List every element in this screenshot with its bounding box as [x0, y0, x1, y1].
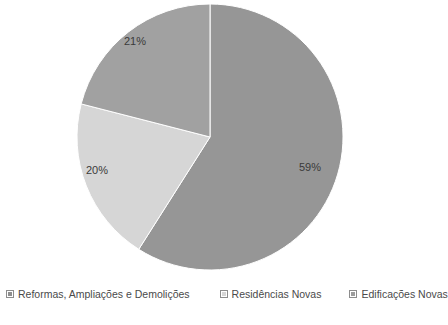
legend-label: Edificações Novas [361, 288, 447, 300]
legend-label: Reformas, Ampliações e Demolições [18, 288, 190, 300]
pie-svg [0, 0, 437, 285]
pie-slice-value-label-residencias: 20% [86, 164, 108, 176]
chart-legend: Reformas, Ampliações e Demolições Residê… [0, 288, 437, 318]
pie-slice-value-label-edificacoes: 21% [124, 35, 146, 47]
legend-swatch-icon [349, 290, 357, 298]
legend-item-edificacoes[interactable]: Edificações Novas [349, 288, 447, 300]
legend-label: Residências Novas [232, 288, 322, 300]
pie-slice-value-label-reformas: 59% [299, 161, 321, 173]
legend-swatch-icon [220, 290, 228, 298]
legend-swatch-icon [6, 290, 14, 298]
legend-item-residencias[interactable]: Residências Novas [220, 288, 322, 300]
pie-chart: 59% 20% 21% [0, 0, 437, 285]
legend-item-reformas[interactable]: Reformas, Ampliações e Demolições [6, 288, 190, 300]
